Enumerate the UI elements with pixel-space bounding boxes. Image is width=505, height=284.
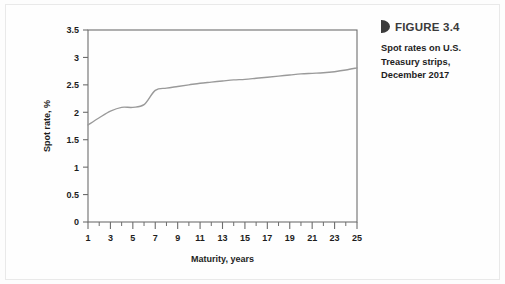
x-axis-tick-label: 19 (285, 233, 295, 243)
x-axis-tick-label: 9 (175, 233, 180, 243)
triangle-marker-icon (381, 20, 390, 33)
figure-title: FIGURE 3.4 (395, 21, 460, 33)
y-axis-tick-label: 2 (74, 108, 79, 118)
y-axis-tick-label: 3.5 (66, 25, 79, 35)
y-axis-tick-label: 1 (74, 163, 79, 173)
data-series-line (88, 68, 357, 125)
x-axis-title: Maturity, years (191, 254, 254, 264)
chart-area: 00.511.522.533.5135791113151719212325Mat… (30, 14, 370, 264)
caption-line-3: December 2017 (381, 69, 497, 83)
x-axis-tick-label: 1 (85, 233, 90, 243)
spot-rate-line-chart: 00.511.522.533.5135791113151719212325Mat… (30, 14, 370, 264)
y-axis-tick-label: 0 (74, 217, 79, 227)
x-axis-tick-label: 3 (108, 233, 113, 243)
caption-line-1: Spot rates on U.S. (381, 42, 497, 56)
x-axis-tick-label: 11 (195, 233, 205, 243)
y-axis-tick-label: 1.5 (66, 135, 79, 145)
x-axis-tick-label: 13 (217, 233, 227, 243)
x-axis-tick-label: 17 (262, 233, 272, 243)
x-axis-tick-label: 25 (352, 233, 362, 243)
x-axis-tick-label: 5 (130, 233, 135, 243)
figure-container: 00.511.522.533.5135791113151719212325Mat… (0, 0, 505, 284)
caption-line-2: Treasury strips, (381, 56, 497, 70)
x-axis-tick-label: 7 (153, 233, 158, 243)
y-axis-title: Spot rate, % (42, 100, 52, 152)
plot-frame (88, 30, 357, 222)
x-axis-tick-label: 23 (330, 233, 340, 243)
figure-heading: FIGURE 3.4 (381, 20, 497, 33)
y-axis-tick-label: 3 (74, 53, 79, 63)
y-axis-tick-label: 0.5 (66, 190, 79, 200)
x-axis-tick-label: 21 (307, 233, 317, 243)
y-axis-tick-label: 2.5 (66, 80, 79, 90)
figure-caption-block: FIGURE 3.4 Spot rates on U.S. Treasury s… (381, 20, 497, 83)
x-axis-tick-label: 15 (240, 233, 250, 243)
